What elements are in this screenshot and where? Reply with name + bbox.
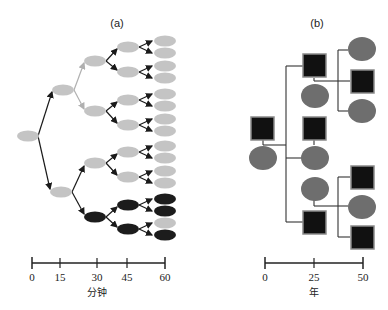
arrow bbox=[106, 217, 117, 227]
cell bbox=[84, 56, 106, 67]
cell-leaf bbox=[154, 48, 176, 59]
arrow bbox=[106, 61, 117, 70]
cell bbox=[52, 85, 74, 96]
cell-leaf bbox=[154, 218, 176, 229]
cell bbox=[117, 147, 139, 158]
male-square bbox=[303, 54, 326, 77]
arrow bbox=[106, 154, 117, 163]
arrow bbox=[38, 136, 50, 189]
male-square bbox=[303, 211, 326, 234]
pedigree-individuals bbox=[249, 37, 376, 249]
tick-label: 30 bbox=[92, 271, 104, 283]
cell-leaf-dark bbox=[154, 194, 176, 205]
male-square bbox=[351, 226, 374, 249]
tick-label: 60 bbox=[160, 271, 172, 283]
leaf-arrows bbox=[139, 41, 152, 235]
female-circle bbox=[301, 146, 329, 170]
cell-leaf bbox=[154, 61, 176, 72]
tick-label: 45 bbox=[122, 271, 134, 283]
male-square bbox=[251, 117, 274, 140]
tick-label: 0 bbox=[29, 271, 35, 283]
cell bbox=[50, 187, 72, 198]
cell-leaf-dark bbox=[154, 230, 176, 241]
female-circle bbox=[301, 177, 329, 201]
arrow bbox=[72, 192, 84, 214]
axis-unit: 分钟 bbox=[87, 286, 107, 298]
cell-leaf bbox=[154, 101, 176, 112]
cell-leaf bbox=[154, 36, 176, 47]
female-circle bbox=[301, 84, 329, 108]
arrow bbox=[106, 207, 117, 217]
cell-leaf bbox=[154, 178, 176, 189]
panel-b-label: (b) bbox=[310, 17, 323, 29]
cell bbox=[84, 158, 106, 169]
pedigree-lines bbox=[263, 50, 350, 237]
cell-root bbox=[17, 131, 39, 142]
cell-leaf bbox=[154, 126, 176, 137]
cell-leaf bbox=[154, 89, 176, 100]
arrow bbox=[38, 92, 52, 136]
cell-dark bbox=[84, 212, 106, 223]
panel-b: (b) bbox=[249, 17, 376, 298]
cell-dark bbox=[117, 224, 139, 235]
arrow bbox=[106, 163, 117, 175]
axis-minutes: 0 15 30 45 60 分钟 bbox=[29, 257, 171, 298]
figure: (a) bbox=[0, 0, 388, 310]
female-circle bbox=[249, 146, 277, 170]
cell bbox=[117, 95, 139, 106]
axis-years: 0 25 50 年 bbox=[262, 257, 369, 298]
female-circle bbox=[348, 37, 376, 61]
cell-leaf bbox=[154, 153, 176, 164]
cell bbox=[117, 172, 139, 183]
panel-a-label: (a) bbox=[110, 17, 123, 29]
division-tree bbox=[17, 36, 176, 241]
cell-leaf-dark bbox=[154, 206, 176, 217]
male-square bbox=[351, 166, 374, 189]
cell bbox=[117, 42, 139, 53]
cell bbox=[117, 120, 139, 131]
arrow bbox=[74, 63, 84, 90]
tick-label: 0 bbox=[262, 271, 268, 283]
arrow bbox=[106, 111, 117, 123]
arrow bbox=[106, 49, 117, 61]
cell bbox=[117, 67, 139, 78]
cell bbox=[84, 106, 106, 117]
arrow bbox=[74, 90, 84, 109]
cell-leaf bbox=[154, 73, 176, 84]
male-square bbox=[351, 70, 374, 93]
female-circle bbox=[348, 99, 376, 123]
male-square bbox=[303, 117, 326, 140]
cells bbox=[17, 36, 176, 241]
cell-leaf bbox=[154, 141, 176, 152]
arrow bbox=[106, 102, 117, 111]
tick-label: 25 bbox=[309, 271, 321, 283]
panel-a: (a) bbox=[17, 17, 176, 298]
tick-label: 50 bbox=[358, 271, 370, 283]
tick-label: 15 bbox=[55, 271, 67, 283]
cell-leaf bbox=[154, 166, 176, 177]
axis-unit: 年 bbox=[309, 286, 319, 298]
cell-leaf bbox=[154, 114, 176, 125]
cell-dark bbox=[117, 200, 139, 211]
arrow bbox=[72, 166, 84, 192]
female-circle bbox=[348, 195, 376, 219]
